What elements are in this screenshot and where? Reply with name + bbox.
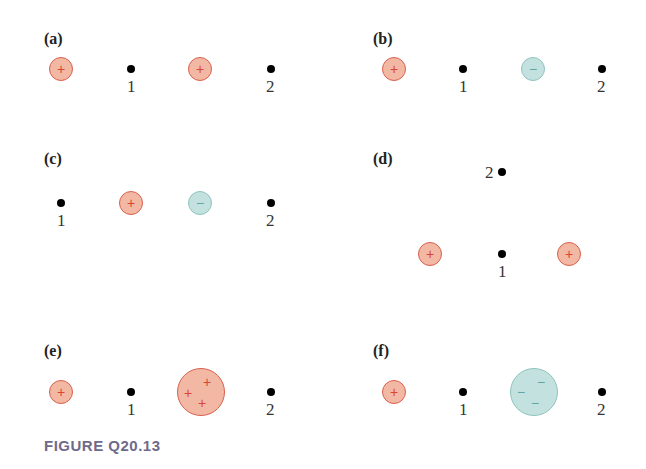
minus-icon: − [517,385,525,399]
point-1-dot [498,250,506,258]
point-1-label: 1 [459,400,468,420]
panel-label-d: (d) [373,150,393,168]
panel-label-c: (c) [44,150,62,168]
point-2-dot [267,388,275,396]
point-2-label: 2 [266,77,275,97]
plus-icon: + [383,58,405,80]
panel-label-e: (e) [44,342,62,360]
panel-label-b: (b) [373,30,393,48]
minus-icon: − [537,375,545,389]
large-negative-charge: − − − [510,368,558,416]
plus-icon: + [203,375,211,389]
point-2-label: 2 [266,211,275,231]
panel-label-a: (a) [44,30,63,48]
point-2-dot [598,65,606,73]
point-1-dot [127,388,135,396]
point-1-dot [459,65,467,73]
point-1-dot [57,199,65,207]
plus-icon: + [558,243,580,265]
positive-charge: + [188,57,212,81]
minus-icon: − [522,58,544,80]
plus-icon: + [189,58,211,80]
positive-charge: + [418,242,442,266]
negative-charge: − [188,191,212,215]
point-2-label: 2 [597,400,606,420]
positive-charge: + [119,191,143,215]
plus-icon: + [383,381,405,403]
positive-charge: + [557,242,581,266]
point-2-dot [267,199,275,207]
point-1-label: 1 [459,77,468,97]
positive-charge: + [49,380,73,404]
plus-icon: + [184,386,192,400]
plus-icon: + [198,396,206,410]
point-1-label: 1 [127,77,136,97]
plus-icon: + [50,58,72,80]
minus-icon: − [531,396,539,410]
point-2-label: 2 [266,400,275,420]
point-2-label: 2 [597,77,606,97]
positive-charge: + [382,380,406,404]
point-2-dot [598,388,606,396]
large-positive-charge: + + + [177,368,225,416]
point-1-dot [127,65,135,73]
negative-charge: − [521,57,545,81]
plus-icon: + [120,192,142,214]
minus-icon: − [189,192,211,214]
point-2-dot [498,168,506,176]
plus-icon: + [419,243,441,265]
figure-caption: FIGURE Q20.13 [44,437,161,454]
point-1-label: 1 [127,400,136,420]
point-1-dot [459,388,467,396]
plus-icon: + [50,381,72,403]
point-2-label: 2 [485,163,494,183]
point-1-label: 1 [57,211,66,231]
positive-charge: + [382,57,406,81]
positive-charge: + [49,57,73,81]
point-1-label: 1 [498,262,507,282]
point-2-dot [267,65,275,73]
panel-label-f: (f) [373,342,389,360]
